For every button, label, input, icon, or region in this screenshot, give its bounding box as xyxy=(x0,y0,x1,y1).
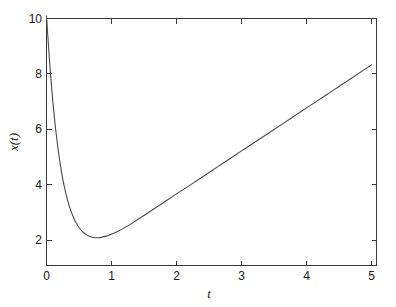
y-tick-label-4: 4 xyxy=(35,178,42,192)
axes-box xyxy=(47,19,377,266)
y-axis-ticks xyxy=(47,19,377,241)
y-axis-title: x(t) xyxy=(6,133,21,152)
y-tick-label-10: 10 xyxy=(29,12,43,26)
plot-canvas: 10 8 6 4 2 0 1 2 3 4 5 xyxy=(0,0,396,307)
data-series-curve xyxy=(47,16,372,238)
x-axis-tick-labels: 0 1 2 3 4 5 xyxy=(43,269,375,283)
y-tick-label-2: 2 xyxy=(35,233,42,247)
x-tick-label-2: 2 xyxy=(173,269,180,283)
x-axis-title: t xyxy=(207,286,211,301)
x-tick-label-1: 1 xyxy=(108,269,115,283)
figure-panel: 10 8 6 4 2 0 1 2 3 4 5 xyxy=(0,0,396,307)
y-tick-label-8: 8 xyxy=(35,67,42,81)
x-axis-ticks xyxy=(47,19,372,266)
x-tick-label-0: 0 xyxy=(43,269,50,283)
x-tick-label-5: 5 xyxy=(368,269,375,283)
y-axis-tick-labels: 10 8 6 4 2 xyxy=(29,12,43,248)
x-tick-label-3: 3 xyxy=(238,269,245,283)
y-tick-label-6: 6 xyxy=(35,122,42,136)
axes-frame xyxy=(47,19,377,266)
x-tick-label-4: 4 xyxy=(303,269,310,283)
